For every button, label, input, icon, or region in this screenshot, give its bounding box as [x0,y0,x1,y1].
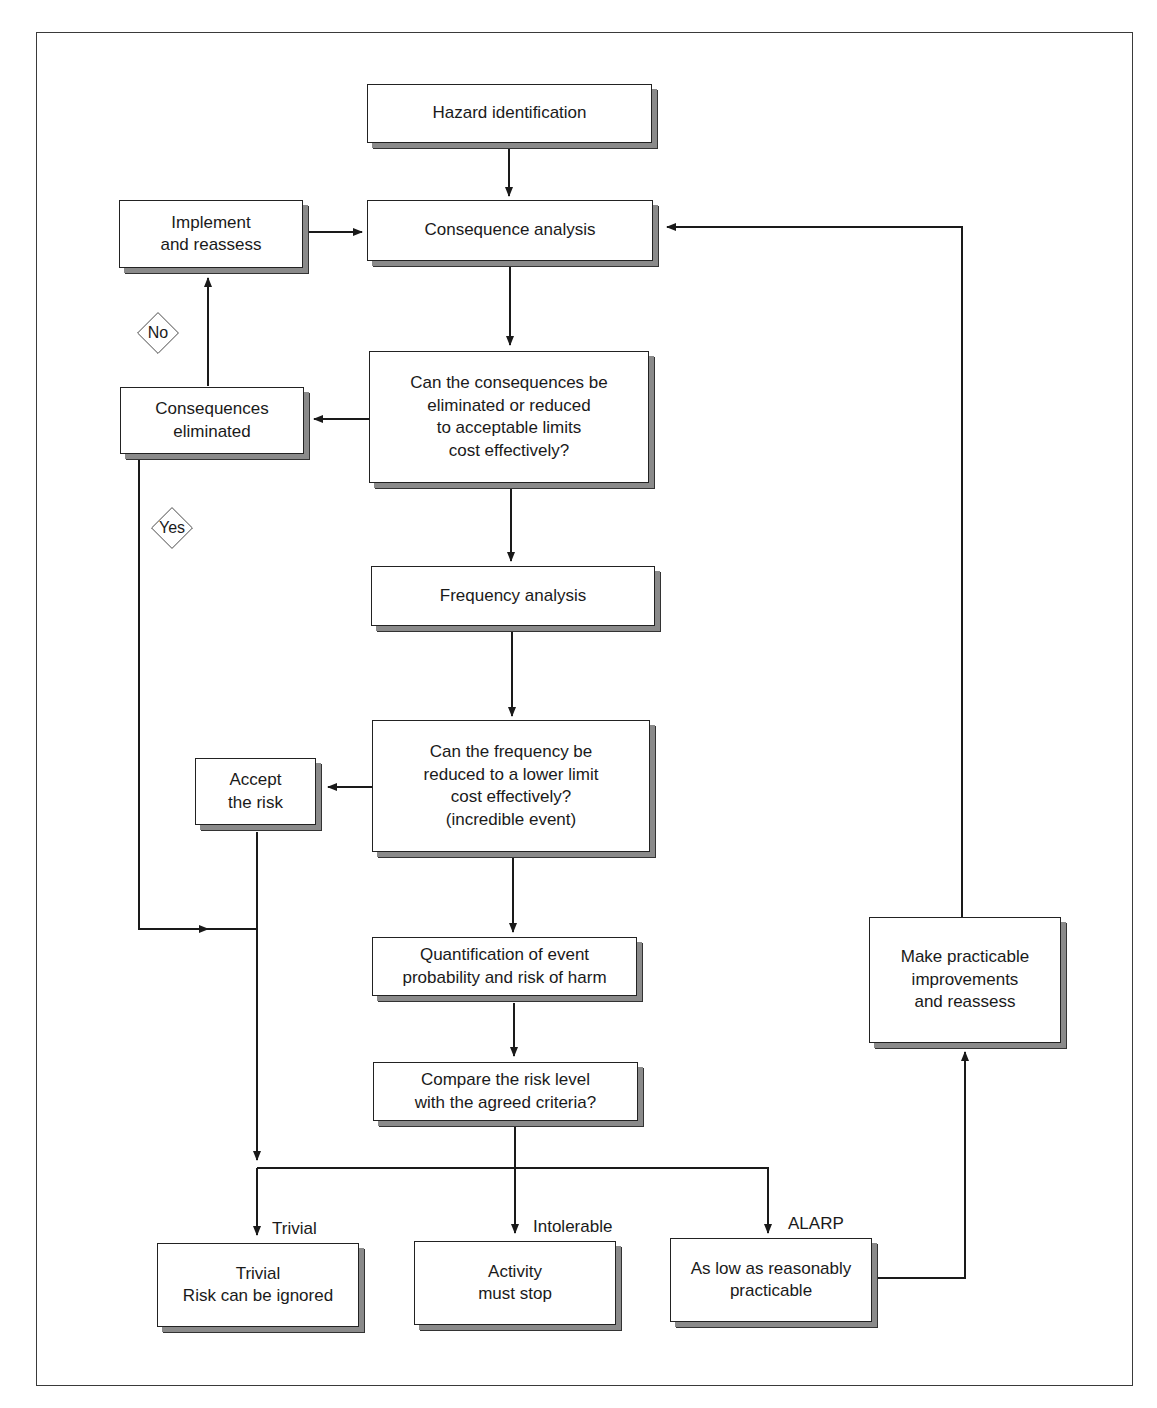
consequence-question-box: Can the consequences be eliminated or re… [369,351,649,483]
no-decision-diamond: No [139,314,177,352]
compare-risk-box: Compare the risk level with the agreed c… [373,1062,638,1121]
yes-decision-diamond: Yes [153,509,191,547]
consequence-analysis-label: Consequence analysis [424,219,595,242]
implement-reassess-box: Implement and reassess [119,200,303,268]
frequency-analysis-box: Frequency analysis [371,566,655,626]
hazard-identification-box: Hazard identification [367,84,652,143]
accept-risk-box: Accept the risk [195,758,316,825]
accept-risk-label: Accept the risk [228,769,283,814]
make-improvements-box: Make practicable improvements and reasse… [869,917,1061,1043]
quantification-label: Quantification of event probability and … [402,944,606,989]
frequency-question-box: Can the frequency be reduced to a lower … [372,720,650,852]
alarp-box: As low as reasonably practicable [670,1238,872,1322]
trivial-box: Trivial Risk can be ignored [157,1243,359,1327]
trivial-label: Trivial Risk can be ignored [183,1263,333,1308]
implement-reassess-label: Implement and reassess [160,212,261,257]
consequence-analysis-box: Consequence analysis [367,200,653,261]
alarp-edge-label: ALARP [788,1214,844,1234]
consequences-eliminated-box: Consequences eliminated [120,387,304,454]
consequence-question-label: Can the consequences be eliminated or re… [410,372,608,462]
alarp-label: As low as reasonably practicable [691,1258,852,1303]
no-label: No [139,314,177,352]
activity-stop-label: Activity must stop [478,1261,552,1306]
quantification-box: Quantification of event probability and … [372,937,637,996]
frequency-question-label: Can the frequency be reduced to a lower … [424,741,599,831]
intolerable-edge-label: Intolerable [533,1217,612,1237]
make-improvements-label: Make practicable improvements and reasse… [901,946,1030,1014]
hazard-identification-label: Hazard identification [432,102,586,125]
trivial-edge-label: Trivial [272,1219,317,1239]
yes-label: Yes [153,509,191,547]
frequency-analysis-label: Frequency analysis [440,585,586,608]
compare-risk-label: Compare the risk level with the agreed c… [415,1069,596,1114]
consequences-eliminated-label: Consequences eliminated [155,398,268,443]
activity-stop-box: Activity must stop [414,1241,616,1325]
